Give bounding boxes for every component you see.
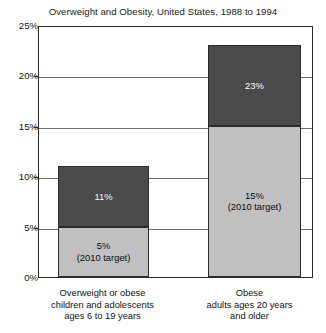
bar-segment-value-label: 11% xyxy=(94,191,112,203)
bar-segment-current[interactable]: 11% xyxy=(58,166,149,226)
y-axis-tick-label: 15% xyxy=(4,122,38,132)
y-axis-tick-label: 0% xyxy=(4,273,38,283)
y-axis-tick-label: 20% xyxy=(4,71,38,81)
x-axis-category-label-line: Obese xyxy=(185,288,314,300)
bar-group[interactable]: 15%(2010 target)23% xyxy=(208,45,301,277)
bar-segment-target[interactable]: 15%(2010 target) xyxy=(208,126,301,277)
x-axis-category-label-line: adults ages 20 years xyxy=(185,300,314,312)
bar-segment-sublabel: (2010 target) xyxy=(228,201,282,213)
y-axis-tick-label: 10% xyxy=(4,172,38,182)
chart-title: Overweight and Obesity, United States, 1… xyxy=(0,6,326,18)
bar-segment-value-label: 23% xyxy=(245,80,264,92)
plot-area: 5%(2010 target)11%15%(2010 target)23% xyxy=(38,26,313,278)
bar-segment-target[interactable]: 5%(2010 target) xyxy=(58,227,149,277)
bar-segment-current[interactable]: 23% xyxy=(208,45,301,126)
y-axis-tick-label: 5% xyxy=(4,223,38,233)
x-axis-category-label: Overweight or obesechildren and adolesce… xyxy=(38,288,167,323)
x-axis-category-label-line: and older xyxy=(185,311,314,323)
x-axis-category-label-line: Overweight or obese xyxy=(38,288,167,300)
bar-group[interactable]: 5%(2010 target)11% xyxy=(58,166,149,277)
y-axis: 0%5%10%15%20%25% xyxy=(0,26,38,278)
bar-segment-value-label: 5% xyxy=(97,240,111,252)
chart-container: Overweight and Obesity, United States, 1… xyxy=(0,0,326,333)
x-axis-category-label-line: children and adolescents xyxy=(38,300,167,312)
y-axis-tick-label: 25% xyxy=(4,21,38,31)
bar-segment-value-label: 15% xyxy=(245,190,264,202)
x-axis-category-label: Obeseadults ages 20 yearsand older xyxy=(185,288,314,323)
bar-segment-sublabel: (2010 target) xyxy=(77,252,131,264)
x-axis-category-label-line: ages 6 to 19 years xyxy=(38,311,167,323)
